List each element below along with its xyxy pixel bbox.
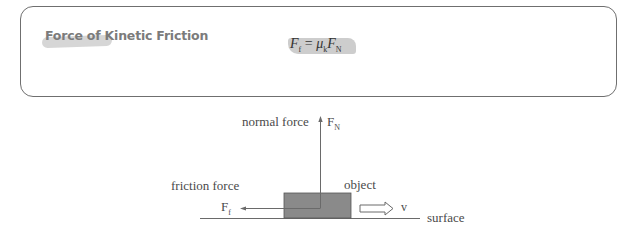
fn-subscript: N: [334, 123, 340, 132]
surface-label: surface: [427, 210, 465, 226]
velocity-arrow-icon: [360, 202, 393, 215]
friction-force-symbol: Ff: [221, 199, 231, 217]
velocity-label: v: [401, 200, 407, 215]
normal-force-arrowhead-icon: [318, 116, 322, 122]
object-block: [284, 193, 351, 218]
normal-force-symbol: FN: [327, 114, 340, 132]
friction-force-label: friction force: [171, 178, 239, 194]
object-label: object: [344, 177, 376, 193]
ff-subscript: f: [228, 208, 231, 217]
normal-force-label: normal force: [242, 114, 309, 130]
friction-arrowhead-icon: [240, 207, 246, 211]
friction-diagram: [0, 0, 639, 245]
